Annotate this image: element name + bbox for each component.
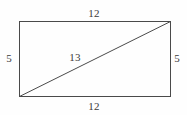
- geometry-figure: 12 5 13 5 12: [0, 0, 187, 115]
- diagonal-line: [20, 22, 171, 97]
- right-side-length-label: 5: [174, 53, 180, 64]
- bottom-side-length-label: 12: [88, 101, 99, 112]
- top-side-length-label: 12: [88, 8, 99, 19]
- left-side-length-label: 5: [6, 53, 12, 64]
- diagonal-length-label: 13: [69, 52, 80, 63]
